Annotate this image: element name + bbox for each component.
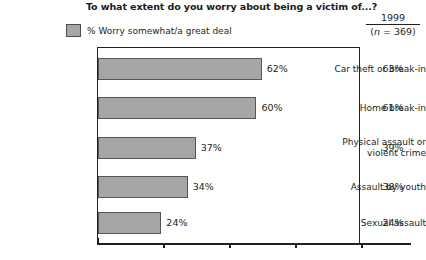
chart-row: Assault by youth34%38% — [0, 176, 426, 198]
bar-1 — [98, 58, 262, 80]
bar-4 — [98, 176, 188, 198]
bar-value-label: 34% — [193, 176, 214, 198]
bar-value-label: 24% — [166, 212, 187, 234]
x-axis-tick-25 — [163, 243, 165, 248]
chart-row: Sexual assault24%24% — [0, 212, 426, 234]
prior-year-column-header: 1999 (n = 369) — [362, 12, 424, 38]
prior-year-value: 61% — [362, 97, 424, 119]
x-axis-tick-75 — [295, 243, 297, 248]
x-axis-tick-50 — [229, 243, 231, 248]
chart-row: Physical assault orviolent crime37%39% — [0, 137, 426, 159]
prior-year-value: 63% — [362, 58, 424, 80]
prior-year-value: 39% — [362, 137, 424, 159]
bar-value-label: 37% — [201, 137, 222, 159]
x-axis-tick-100 — [361, 243, 363, 248]
prior-year-sample-size: (n = 369) — [362, 26, 424, 38]
legend-label-worry: % Worry somewhat/a great deal — [87, 26, 232, 36]
legend-swatch-worry — [66, 24, 81, 37]
prior-year-value: 38% — [362, 176, 424, 198]
bar-3 — [98, 137, 196, 159]
n-value: = 369) — [380, 26, 416, 37]
prior-year-value: 24% — [362, 212, 424, 234]
chart-row: Home break-in60%61% — [0, 97, 426, 119]
chart-legend: % Worry somewhat/a great deal — [66, 24, 232, 37]
bar-value-label: 62% — [267, 58, 288, 80]
page-title: To what extent do you worry about being … — [86, 1, 377, 12]
x-axis-line — [97, 243, 411, 245]
chart-row: Car theft or break-in62%63% — [0, 58, 426, 80]
prior-year-label: 1999 — [366, 12, 420, 25]
bar-2 — [98, 97, 256, 119]
bar-5 — [98, 212, 161, 234]
bar-value-label: 60% — [261, 97, 282, 119]
